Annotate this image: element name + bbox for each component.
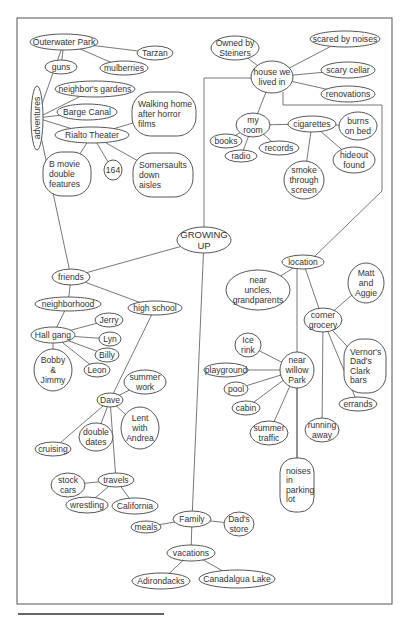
- node-my-room: myroom: [236, 113, 270, 137]
- node-label: radio: [231, 151, 250, 161]
- node-label: cruising: [38, 444, 68, 454]
- node-label: records: [265, 143, 294, 153]
- node-near-uncles: nearuncles,grandparents: [226, 270, 290, 310]
- node-label: Lyn: [103, 334, 117, 344]
- node-guns: guns: [45, 60, 77, 74]
- node-lyn: Lyn: [99, 332, 121, 346]
- node-high-school: high school: [128, 301, 182, 315]
- node-label: scary cellar: [326, 65, 370, 75]
- node-pool: pool: [224, 382, 248, 396]
- node-ice-rink: Icerink: [235, 333, 261, 357]
- node-friends: friends: [52, 269, 90, 285]
- node-corner-grocery: cornergrocery: [304, 308, 342, 332]
- node-radio: radio: [225, 150, 257, 162]
- node-label: nearwillowPark: [285, 355, 310, 384]
- node-errands: errands: [339, 397, 377, 411]
- node-jerry: Jerry: [95, 313, 123, 327]
- node-label: cigarettes: [293, 119, 330, 129]
- node-label: Icerink: [241, 335, 256, 355]
- node-matt-aggie: MattandAggie: [348, 263, 384, 303]
- node-label: cabin: [236, 403, 257, 413]
- node-label: high school: [133, 303, 177, 313]
- node-root: GROWINGUP: [177, 227, 231, 253]
- node-rialto: Rialto Theater: [55, 127, 129, 143]
- node-adventures: adventures: [31, 86, 43, 150]
- node-label: meals: [135, 522, 158, 532]
- edge-adventures-friends: [37, 118, 71, 277]
- node-label: Billy: [99, 350, 115, 360]
- node-lent-andrea: LentwithAndrea: [121, 407, 159, 449]
- node-playground: playground: [204, 363, 248, 377]
- node-mulberries: mulberries: [100, 61, 148, 75]
- node-label: Leon: [87, 365, 106, 375]
- node-label: neighborhood: [42, 299, 95, 309]
- node-label: Owned bySteiners: [216, 38, 255, 58]
- node-adirondacks: Adirondacks: [132, 573, 190, 589]
- node-label: vacations: [173, 548, 209, 558]
- node-walking-home: Walking homeafter horrorfilms: [132, 92, 196, 136]
- node-somersaults: Somersaultsdownaisles: [133, 153, 193, 197]
- node-vernors: Vernor'sDad'sClarkbars: [344, 339, 386, 393]
- node-steiners: Owned bySteiners: [211, 36, 259, 60]
- node-label: pool: [228, 384, 244, 394]
- node-label: books: [215, 136, 238, 146]
- node-stock-cars: stockcars: [51, 473, 85, 497]
- node-tarzan: Tarzan: [137, 46, 173, 60]
- node-records: records: [259, 141, 299, 155]
- node-label: house welived in: [254, 67, 291, 87]
- node-smoke: smokethroughscreen: [284, 161, 324, 199]
- node-label: playground: [205, 365, 248, 375]
- node-leon: Leon: [84, 363, 110, 377]
- node-label: smokethroughscreen: [289, 165, 318, 194]
- node-burns: burnson bed: [339, 112, 377, 140]
- node-neighbors-gardens: neighbor's gardens: [55, 81, 135, 97]
- node-dads-store: Dad'sstore: [224, 512, 254, 536]
- node-cigarettes: cigarettes: [288, 116, 336, 132]
- node-vacations: vacations: [167, 545, 215, 561]
- node-scary-cellar: scary cellar: [321, 62, 375, 78]
- node-label: errands: [343, 399, 372, 409]
- node-summer-work: summerwork: [124, 370, 166, 394]
- node-label: California: [117, 501, 154, 511]
- node-summer-traffic: summertraffic: [250, 421, 288, 445]
- node-label: Barge Canal: [63, 107, 111, 117]
- node-label: travels: [103, 475, 128, 485]
- node-cruising: cruising: [35, 442, 71, 456]
- node-label: Jerry: [99, 315, 119, 325]
- node-label: burnson bed: [345, 116, 372, 136]
- node-label: hideoutfound: [340, 150, 369, 170]
- node-house: house welived in: [251, 61, 293, 93]
- node-outerwater: Outerwater Park: [30, 34, 98, 50]
- node-hideout: hideoutfound: [333, 147, 375, 173]
- node-label: adventures: [32, 97, 42, 140]
- node-label: guns: [52, 62, 71, 72]
- node-b-movie: B moviedoublefeatures: [43, 152, 91, 196]
- node-dave: Dave: [97, 393, 123, 407]
- node-label: neighbor's gardens: [59, 84, 132, 94]
- node-label: wrestling: [69, 500, 104, 510]
- edge-corner_grocery-running_away: [322, 320, 323, 430]
- node-billy: Billy: [95, 348, 119, 362]
- node-cabin: cabin: [232, 401, 260, 415]
- node-label: doubledates: [83, 427, 109, 447]
- node-family: Family: [173, 511, 211, 527]
- mind-map-canvas: GROWINGUPadventuresOuterwater ParkTarzan…: [0, 0, 409, 620]
- node-renovations: renovations: [321, 86, 375, 102]
- node-books: books: [210, 134, 242, 148]
- node-noises-parking: noisesinparkinglot: [280, 458, 314, 512]
- node-hall-gang: Hall gang: [31, 327, 75, 343]
- node-label: location: [288, 257, 318, 267]
- node-meals: meals: [131, 521, 161, 533]
- node-label: Adirondacks: [137, 576, 184, 586]
- node-label: stockcars: [58, 475, 79, 495]
- node-double-dates: doubledates: [79, 423, 113, 451]
- node-canadalgua: Canadalgua Lake: [199, 570, 275, 588]
- node-label: renovations: [326, 89, 370, 99]
- node-label: 164: [106, 165, 121, 175]
- node-neighborhood: neighborhood: [35, 297, 101, 311]
- node-label: cornergrocery: [309, 310, 338, 330]
- node-label: Dave: [100, 395, 120, 405]
- node-label: friends: [58, 272, 84, 282]
- node-running-away: runningaway: [305, 418, 339, 442]
- node-label: Hall gang: [35, 330, 72, 340]
